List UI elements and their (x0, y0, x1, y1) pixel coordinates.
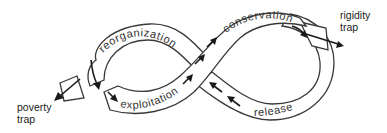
rigidity-trap-label-line2: trap (340, 21, 358, 33)
poverty-trap-label-line1: poverty (17, 101, 52, 113)
diagram-canvas: reorganization exploitation conservation… (0, 0, 387, 133)
poverty-trap-label-line2: trap (17, 113, 35, 125)
adaptive-cycle-diagram: reorganization exploitation conservation… (0, 0, 387, 133)
rigidity-trap-label-line1: rigidity (340, 9, 371, 21)
poverty-trap-branch (60, 76, 84, 101)
